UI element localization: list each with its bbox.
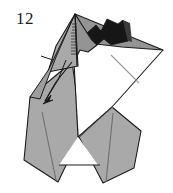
origami-diagram bbox=[0, 0, 173, 193]
reference-tick-icon bbox=[41, 56, 53, 60]
origami-step-figure: 12 bbox=[0, 0, 173, 193]
